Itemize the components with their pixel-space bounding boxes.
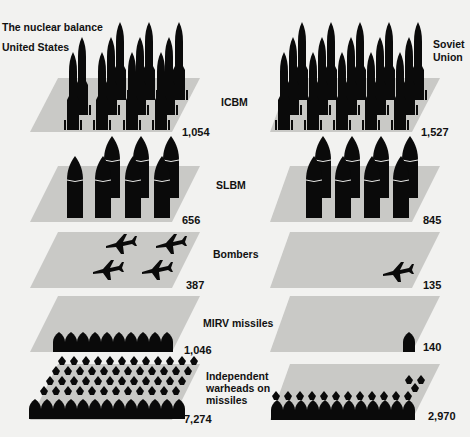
ussr-label-line2: Union <box>433 51 463 63</box>
ussr-mirv-value: 140 <box>423 341 441 353</box>
us-label: United States <box>2 41 69 53</box>
ussr-icbm-value: 1,527 <box>421 126 449 138</box>
us-warheads-value: 7,274 <box>184 413 212 425</box>
category-warheads-line2: warheads on <box>206 382 270 394</box>
us-mirv-value: 1,046 <box>184 344 212 356</box>
missile-icon-group-ussr <box>275 22 427 130</box>
ussr-slbm-value: 845 <box>423 214 441 226</box>
us-slbm-value: 656 <box>182 214 200 226</box>
category-mirv: MIRV missiles <box>203 317 273 329</box>
ussr-warheads-value: 2,970 <box>428 410 456 422</box>
category-warheads-line3: missiles <box>206 394 247 406</box>
ussr-bombers-value: 135 <box>423 279 441 291</box>
missile-icon-group-us <box>64 22 188 130</box>
category-icbm: ICBM <box>221 96 248 108</box>
category-slbm: SLBM <box>216 179 246 191</box>
ussr-label-line1: Soviet <box>433 38 465 50</box>
category-bombers: Bombers <box>213 248 259 260</box>
us-icbm-value: 1,054 <box>182 126 210 138</box>
category-warheads-line1: Independent <box>206 370 268 382</box>
chart-title: The nuclear balance <box>2 21 103 33</box>
us-bombers-value: 387 <box>186 279 204 291</box>
